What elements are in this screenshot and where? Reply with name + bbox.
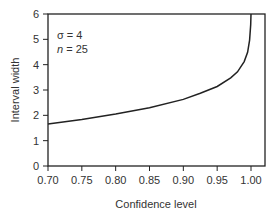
x-axis-label: Confidence level	[115, 198, 196, 210]
y-tick-label: 6	[33, 8, 39, 20]
y-tick-label: 2	[33, 109, 39, 121]
y-tick-label: 1	[33, 135, 39, 147]
y-tick-label: 0	[33, 160, 39, 172]
line-chart: 01234560.700.750.800.850.900.951.00 σ = …	[0, 0, 278, 217]
x-tick-label: 0.75	[71, 174, 92, 186]
y-tick-label: 4	[33, 59, 39, 71]
x-tick-label: 1.00	[240, 174, 261, 186]
annotation-n: n = 25	[57, 43, 88, 55]
annotation-sigma: σ = 4	[57, 29, 82, 41]
y-tick-label: 5	[33, 33, 39, 45]
y-tick-label: 3	[33, 84, 39, 96]
x-tick-label: 0.95	[206, 174, 227, 186]
y-axis-label: Interval width	[9, 58, 21, 123]
x-tick-label: 0.70	[37, 174, 58, 186]
chart: 01234560.700.750.800.850.900.951.00 σ = …	[0, 0, 278, 217]
x-tick-label: 0.80	[105, 174, 126, 186]
x-tick-label: 0.85	[139, 174, 160, 186]
x-tick-label: 0.90	[173, 174, 194, 186]
